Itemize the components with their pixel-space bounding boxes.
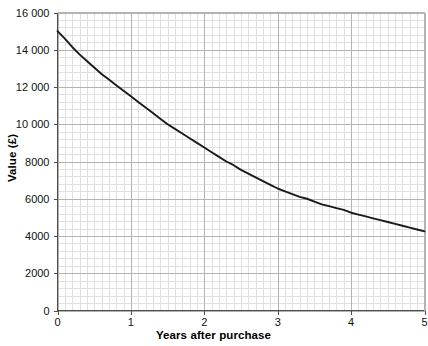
y-axis-title: Value (£) xyxy=(6,118,18,198)
y-tick-label: 12 000 xyxy=(0,81,50,93)
x-tick-label: 5 xyxy=(421,316,427,328)
x-tick-label: 0 xyxy=(54,316,60,328)
x-axis-title: Years after purchase xyxy=(0,329,427,341)
y-tick-label: 14 000 xyxy=(0,44,50,56)
y-tick-label: 16 000 xyxy=(0,7,50,19)
x-tick-label: 4 xyxy=(348,316,354,328)
y-tick-label: 2000 xyxy=(0,267,50,279)
x-tick-label: 2 xyxy=(201,316,207,328)
y-tick-label: 0 xyxy=(0,305,50,317)
x-tick-label: 3 xyxy=(275,316,281,328)
x-tick-label: 1 xyxy=(128,316,134,328)
y-tick-label: 4000 xyxy=(0,230,50,242)
